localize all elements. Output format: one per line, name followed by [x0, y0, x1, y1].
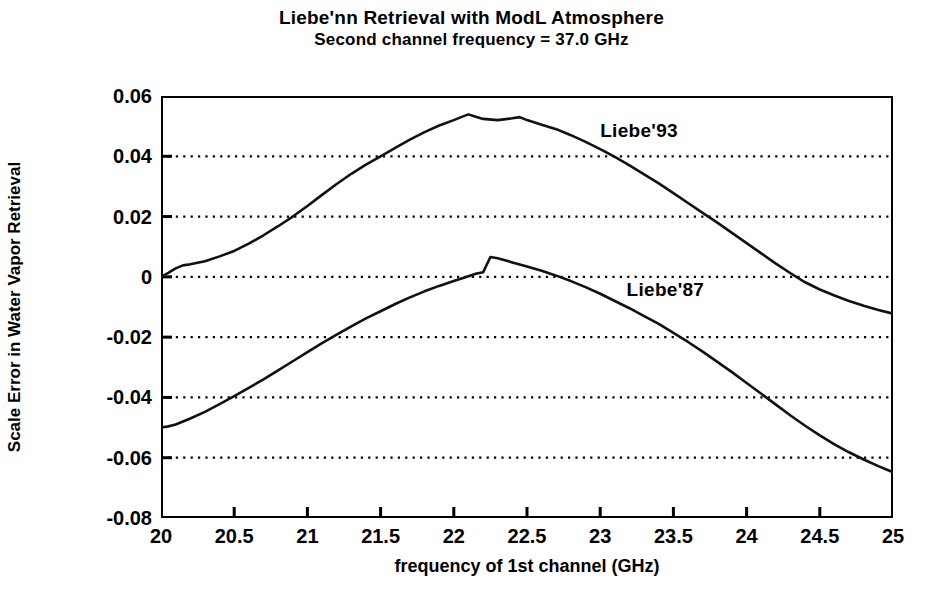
- page-title: Liebe'nn Retrieval with ModL Atmosphere: [0, 6, 943, 29]
- y-tick-label: -0.06: [106, 448, 152, 468]
- curve-label-liebe93: Liebe'93: [600, 120, 678, 142]
- y-axis-ticks: 0.060.040.020-0.02-0.04-0.06-0.08: [0, 96, 152, 518]
- chart-subtitle: Second channel frequency = 37.0 GHz: [0, 29, 943, 51]
- y-tick-label: -0.08: [106, 508, 152, 528]
- x-axis-ticks: 2020.52121.52222.52323.52424.525: [161, 526, 893, 552]
- y-tick-label: 0.02: [113, 207, 152, 227]
- y-tick-label: 0: [141, 267, 152, 287]
- x-tick-label: 22: [443, 526, 465, 546]
- x-tick-label: 24.5: [800, 526, 839, 546]
- y-tick-label: -0.02: [106, 327, 152, 347]
- y-tick-label: -0.04: [106, 387, 152, 407]
- x-tick-label: 20: [150, 526, 172, 546]
- y-tick-label: 0.06: [113, 86, 152, 106]
- x-tick-label: 21.5: [361, 526, 400, 546]
- y-tick-label: 0.04: [113, 146, 152, 166]
- x-tick-label: 22.5: [508, 526, 547, 546]
- x-tick-label: 23.5: [654, 526, 693, 546]
- title-block: Liebe'nn Retrieval with ModL Atmosphere …: [0, 6, 943, 51]
- plot-frame: [162, 97, 893, 518]
- x-tick-label: 21: [296, 526, 318, 546]
- x-tick-label: 23: [589, 526, 611, 546]
- series-line-liebe-87: [161, 257, 893, 472]
- plot-area: [161, 96, 893, 518]
- x-tick-label: 25: [882, 526, 904, 546]
- x-tick-label: 20.5: [215, 526, 254, 546]
- series-line-liebe-93: [161, 114, 893, 313]
- x-axis-label: frequency of 1st channel (GHz): [161, 556, 893, 577]
- chart-figure: Liebe'nn Retrieval with ModL Atmosphere …: [0, 0, 943, 605]
- x-tick-label: 24: [735, 526, 757, 546]
- plot-svg: [161, 96, 893, 518]
- curve-label-liebe87: Liebe'87: [627, 279, 705, 301]
